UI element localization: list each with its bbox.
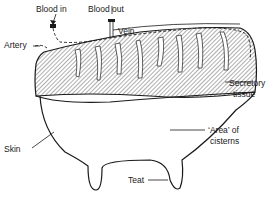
udder-diagram: Blood in Blood out Artery Vein Secretory… xyxy=(0,0,275,198)
label-artery: Artery xyxy=(4,40,27,50)
label-vein: Vein xyxy=(118,26,135,36)
label-blood-in: Blood in xyxy=(36,4,67,14)
label-cisterns-2: cisterns xyxy=(210,136,239,146)
label-blood-out: Blood out xyxy=(88,4,125,14)
label-cisterns-1: ‘Area’ of xyxy=(208,125,240,135)
label-secretory-1: Secretory xyxy=(229,78,266,88)
label-teat: Teat xyxy=(128,175,145,185)
label-skin: Skin xyxy=(4,144,21,154)
label-secretory-2: tissue xyxy=(233,89,255,99)
secretory-tissue-region xyxy=(35,28,257,98)
vein-stub xyxy=(108,19,115,22)
